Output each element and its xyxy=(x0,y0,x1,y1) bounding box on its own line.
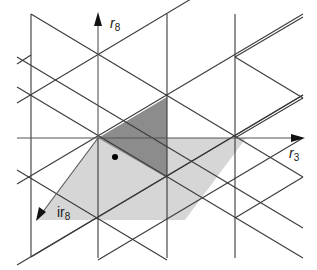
marked-point-dot xyxy=(112,154,118,160)
lattice-diagram: r8 r3 ir8 xyxy=(0,0,317,270)
label-ir8: ir8 xyxy=(57,205,70,222)
lattice-svg xyxy=(0,0,317,270)
label-r3: r3 xyxy=(289,146,299,163)
label-r8: r8 xyxy=(110,16,120,33)
r8-arrowhead-icon xyxy=(94,12,102,26)
